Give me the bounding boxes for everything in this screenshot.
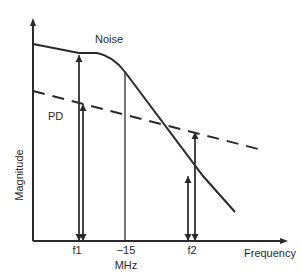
unit-mhz: MHz [115,259,138,271]
tick-f2: f2 [187,244,196,256]
noise-curve [33,44,235,212]
y-axis-label: Magnitude [13,149,25,200]
tick-minus15: −15 [117,244,136,256]
pd-curve [33,91,262,150]
noise-label: Noise [95,33,123,45]
tick-f1: f1 [72,244,81,256]
pd-label: PD [48,110,63,122]
x-axis-label: Frequency [244,247,296,259]
diagram-canvas: Noise PD Magnitude Frequency f1 −15 f2 M… [0,0,302,280]
